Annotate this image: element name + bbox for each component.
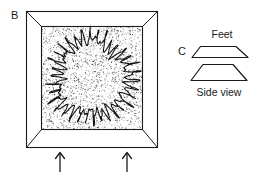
- figure-canvas: B: [0, 0, 265, 175]
- foot-shape-bottom: [191, 65, 247, 81]
- figure-root: B: [0, 0, 265, 175]
- arrow-right: [123, 153, 132, 173]
- feet-caption: Feet: [211, 28, 232, 40]
- side-view-caption: Side view: [197, 86, 242, 98]
- foot-shape-top: [192, 47, 248, 58]
- panel-c-label: C: [178, 45, 186, 57]
- panel-c: C Feet Side view: [178, 28, 248, 98]
- panel-b: B: [11, 9, 158, 172]
- panel-b-label: B: [11, 9, 18, 21]
- arrow-left: [56, 153, 65, 173]
